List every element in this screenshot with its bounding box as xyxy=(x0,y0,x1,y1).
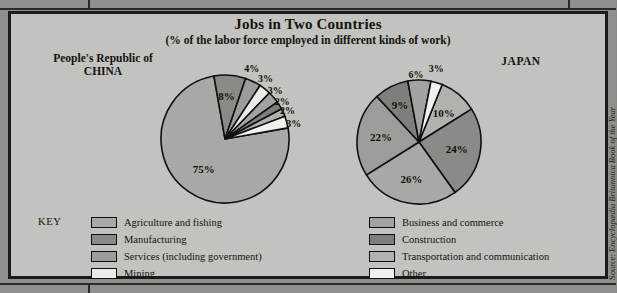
legend-item: Services (including government) xyxy=(91,248,262,264)
legend-item-label: Services (including government) xyxy=(124,251,262,262)
swatch-services xyxy=(91,251,117,262)
legend-item-label: Mining xyxy=(124,268,155,279)
legend-item-label: Other xyxy=(402,268,426,279)
pie-slice-value-label: 9% xyxy=(392,99,409,111)
japan-chart-label: JAPAN xyxy=(466,55,576,68)
legend-item: Construction xyxy=(369,231,549,247)
japan-pie-chart: 10%24%26%22%9%6%3% xyxy=(346,69,492,215)
legend-item-label: Agriculture and fishing xyxy=(124,217,222,228)
swatch-business xyxy=(369,217,395,228)
china-pie-chart: 75%8%4%3%3%2%2%3% xyxy=(151,64,301,214)
japan-pie-svg: 10%24%26%22%9%6%3% xyxy=(346,69,492,215)
pie-slice-value-label: 3% xyxy=(429,63,444,74)
page-rule-top xyxy=(0,8,616,10)
key-label: KEY xyxy=(38,216,61,227)
legend-left-column: Agriculture and fishingManufacturingServ… xyxy=(91,214,262,282)
swatch-manufacturing xyxy=(91,234,117,245)
legend-right-column: Business and commerceConstructionTranspo… xyxy=(369,214,549,282)
legend-item: Manufacturing xyxy=(91,231,262,247)
pie-slice-value-label: 4% xyxy=(244,62,259,73)
pie-slice-value-label: 2% xyxy=(280,105,295,116)
figure-panel: Jobs in Two Countries (% of the labor fo… xyxy=(8,11,608,279)
swatch-transportation xyxy=(369,251,395,262)
pie-slice-value-label: 8% xyxy=(218,90,235,102)
swatch-agriculture xyxy=(91,217,117,228)
legend-item-label: Construction xyxy=(402,234,456,245)
legend-item: Agriculture and fishing xyxy=(91,214,262,230)
legend-item: Mining xyxy=(91,265,262,281)
legend-item-label: Transportation and communication xyxy=(402,251,549,262)
pie-slice-value-label: 6% xyxy=(408,69,423,80)
pie-slice-value-label: 3% xyxy=(286,118,301,129)
legend-item-label: Manufacturing xyxy=(124,234,186,245)
legend-item: Other xyxy=(369,265,549,281)
page-tick-bottom-left xyxy=(88,283,90,293)
swatch-construction xyxy=(369,234,395,245)
page-tick-top-left xyxy=(88,0,90,9)
swatch-mining xyxy=(91,268,117,279)
pie-slice-value-label: 3% xyxy=(258,73,273,84)
figure-subtitle: (% of the labor force employed in differ… xyxy=(11,34,605,46)
pie-slice-value-label: 22% xyxy=(370,131,392,143)
china-pie-svg: 75%8%4%3%3%2%2%3% xyxy=(151,64,301,214)
figure-title: Jobs in Two Countries xyxy=(11,16,605,33)
pie-slice-value-label: 3% xyxy=(268,85,283,96)
pie-slice-value-label: 26% xyxy=(401,173,423,185)
pie-slice-value-label: 75% xyxy=(193,163,215,175)
legend-item: Business and commerce xyxy=(369,214,549,230)
source-title: Encyclopædia Britannica Book of the Year xyxy=(607,107,617,252)
legend-item-label: Business and commerce xyxy=(402,217,503,228)
pie-slice-value-label: 24% xyxy=(446,143,468,155)
page-rule-bottom xyxy=(0,283,616,285)
legend-item: Transportation and communication xyxy=(369,248,549,264)
swatch-other xyxy=(369,268,395,279)
pie-slice-value-label: 10% xyxy=(433,107,455,119)
page-tick-top-right xyxy=(568,0,570,9)
source-credit: Source: Encyclopædia Britannica Book of … xyxy=(607,110,617,280)
source-prefix: Source: xyxy=(607,252,617,280)
